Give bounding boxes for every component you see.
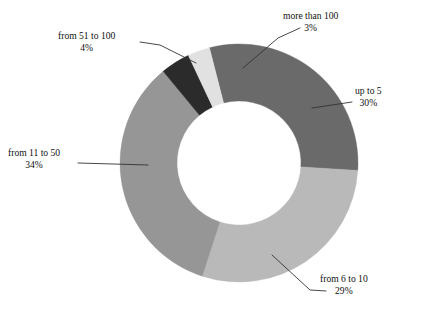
slice-up-to-5[interactable] bbox=[209, 44, 358, 170]
slice-from-6-to-10[interactable] bbox=[202, 167, 358, 282]
donut-slices bbox=[120, 44, 358, 282]
slice-label-value: 3% bbox=[283, 22, 338, 34]
slice-label-up-to-5: up to 5 30% bbox=[355, 85, 382, 109]
slice-label-value: 34% bbox=[8, 159, 60, 171]
slice-label-from-11-to-50: from 11 to 50 34% bbox=[8, 147, 60, 171]
slice-label-more-than-100: more than 100 3% bbox=[283, 10, 338, 34]
slice-label-category: from 11 to 50 bbox=[8, 147, 60, 159]
slice-label-value: 4% bbox=[58, 42, 115, 54]
slice-label-category: up to 5 bbox=[355, 85, 382, 97]
slice-label-category: more than 100 bbox=[283, 10, 338, 22]
slice-label-category: from 6 to 10 bbox=[320, 273, 368, 285]
slice-label-from-51-to-100: from 51 to 100 4% bbox=[58, 30, 115, 54]
slice-label-category: from 51 to 100 bbox=[58, 30, 115, 42]
slice-label-value: 30% bbox=[355, 97, 382, 109]
slice-label-value: 29% bbox=[320, 285, 368, 297]
slice-label-from-6-to-10: from 6 to 10 29% bbox=[320, 273, 368, 297]
chart-canvas: more than 100 3% up to 5 30% from 6 to 1… bbox=[0, 0, 422, 314]
